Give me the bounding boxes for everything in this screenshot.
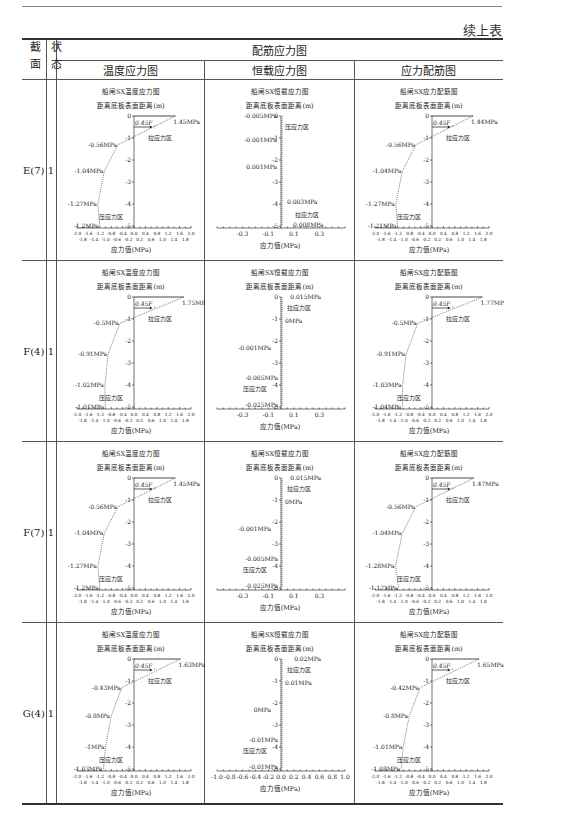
svg-text:-1.4: -1.4: [89, 599, 98, 604]
svg-text:0: 0: [425, 474, 429, 481]
svg-text:-0.43MPa: -0.43MPa: [91, 684, 120, 691]
svg-text:1.6: 1.6: [474, 593, 481, 598]
svg-text:t: t: [154, 305, 156, 309]
table-row: F(4)1船闸SX温度应力图距离底板表面距离(m)0-1-2-3-4-5-2.0…: [22, 261, 503, 442]
svg-text:-4: -4: [125, 200, 131, 207]
svg-text:-1.0: -1.0: [399, 599, 408, 604]
svg-text:1.4: 1.4: [468, 780, 475, 785]
svg-text:0.6: 0.6: [147, 418, 154, 423]
svg-text:距离底板表面距离(m): 距离底板表面距离(m): [97, 101, 165, 110]
svg-text:0: 0: [127, 293, 131, 300]
svg-text:-2: -2: [125, 156, 131, 163]
rebar-stress-chart: 船闸SX应力配筋图距离底板表面距离(m)0-1-2-3-4-5-2.0-1.6-…: [354, 261, 503, 442]
svg-text:-3: -3: [125, 540, 131, 547]
svg-text:-1.8: -1.8: [78, 418, 87, 423]
svg-text:0.0: 0.0: [130, 593, 137, 598]
svg-text:0MPa: 0MPa: [253, 706, 271, 713]
svg-text:-0.005MPa: -0.005MPa: [244, 112, 277, 119]
svg-text:-2.0: -2.0: [370, 593, 379, 598]
svg-text:-0.4: -0.4: [416, 774, 425, 779]
svg-text:0.2: 0.2: [136, 418, 143, 423]
svg-text:距离底板表面距离(m): 距离底板表面距离(m): [246, 463, 314, 472]
state-label: 1: [46, 442, 56, 623]
svg-text:-1.6: -1.6: [84, 231, 93, 236]
svg-text:1.2: 1.2: [462, 593, 469, 598]
svg-text:-2.0: -2.0: [72, 412, 81, 417]
svg-text:1.6: 1.6: [474, 774, 481, 779]
svg-text:t: t: [452, 124, 454, 128]
svg-text:-2.0: -2.0: [72, 593, 81, 598]
state-label: 1: [46, 261, 56, 442]
svg-text:0.8: 0.8: [451, 774, 458, 779]
svg-text:-1.4: -1.4: [387, 780, 396, 785]
svg-text:-1.0: -1.0: [101, 237, 110, 242]
svg-text:-1.4: -1.4: [387, 418, 396, 423]
svg-text:2.0: 2.0: [485, 412, 492, 417]
svg-text:拉应力区: 拉应力区: [148, 134, 172, 142]
svg-text:-0.001MPa: -0.001MPa: [244, 136, 277, 143]
section-label: F(7): [22, 442, 46, 623]
svg-text:1.65MPa: 1.65MPa: [477, 661, 504, 668]
svg-text:压应力区: 压应力区: [397, 213, 421, 221]
svg-text:0.6: 0.6: [147, 780, 154, 785]
svg-text:-1.6: -1.6: [84, 412, 93, 417]
svg-text:2.0: 2.0: [187, 593, 194, 598]
svg-text:0.2: 0.2: [289, 773, 299, 780]
svg-text:距离底板表面距离(m): 距离底板表面距离(m): [395, 644, 463, 653]
svg-text:0.45F: 0.45F: [433, 662, 451, 669]
svg-text:-1: -1: [125, 677, 131, 684]
svg-text:1.44MPa: 1.44MPa: [471, 118, 498, 125]
svg-text:-4: -4: [125, 562, 131, 569]
svg-text:0: 0: [274, 655, 278, 662]
svg-text:应力值(MPa): 应力值(MPa): [110, 607, 151, 616]
svg-text:应力值(MPa): 应力值(MPa): [259, 603, 300, 612]
svg-text:-1.8: -1.8: [376, 418, 385, 423]
svg-text:-0.8: -0.8: [107, 774, 116, 779]
svg-text:0: 0: [425, 293, 429, 300]
svg-text:0.2: 0.2: [136, 780, 143, 785]
svg-text:-3: -3: [423, 178, 429, 185]
svg-text:2.0: 2.0: [485, 774, 492, 779]
svg-text:-0.3: -0.3: [236, 411, 248, 418]
svg-text:0.6: 0.6: [147, 599, 154, 604]
svg-text:-1: -1: [272, 677, 278, 684]
svg-text:-3: -3: [423, 540, 429, 547]
svg-text:船闸SX温度应力图: 船闸SX温度应力图: [101, 630, 159, 639]
svg-text:1.8: 1.8: [181, 237, 188, 242]
svg-text:-3: -3: [272, 721, 278, 728]
svg-text:距离底板表面距离(m): 距离底板表面距离(m): [97, 644, 165, 653]
svg-text:船闸SX恒载应力图: 船闸SX恒载应力图: [250, 87, 308, 96]
svg-text:-1: -1: [272, 315, 278, 322]
svg-text:-1.8: -1.8: [78, 237, 87, 242]
svg-text:0.8: 0.8: [451, 593, 458, 598]
svg-text:-0.8: -0.8: [405, 593, 414, 598]
svg-text:1.4: 1.4: [468, 418, 475, 423]
svg-text:-1.8: -1.8: [376, 237, 385, 242]
svg-text:-0.4: -0.4: [416, 593, 425, 598]
svg-text:船闸SX应力配筋图: 船闸SX应力配筋图: [399, 630, 457, 639]
svg-text:t: t: [154, 124, 156, 128]
svg-text:-0.3: -0.3: [236, 592, 248, 599]
svg-text:0.01MPa: 0.01MPa: [285, 679, 312, 686]
svg-text:2.0: 2.0: [485, 231, 492, 236]
svg-text:船闸SX恒载应力图: 船闸SX恒载应力图: [250, 449, 308, 458]
svg-text:-1: -1: [272, 496, 278, 503]
svg-text:压应力区: 压应力区: [243, 747, 267, 755]
dead-load-stress-chart: 船闸SX恒载应力图距离底板表面距离(m)0-1-2-3-4-5-0.3-0.10…: [204, 442, 354, 623]
svg-text:1.6: 1.6: [474, 231, 481, 236]
svg-text:1.4: 1.4: [170, 418, 177, 423]
svg-text:0.2: 0.2: [434, 418, 441, 423]
svg-text:-1.8: -1.8: [78, 780, 87, 785]
svg-text:-0.2: -0.2: [422, 599, 431, 604]
svg-text:-4: -4: [423, 562, 429, 569]
svg-text:-1.02MPa: -1.02MPa: [75, 381, 104, 388]
svg-text:2.0: 2.0: [485, 593, 492, 598]
svg-text:-1.2MPa: -1.2MPa: [73, 222, 98, 229]
continued-label: 续上表: [463, 20, 502, 39]
svg-text:0.6: 0.6: [445, 237, 452, 242]
svg-text:-1.17MPa: -1.17MPa: [368, 584, 397, 591]
svg-text:-2: -2: [272, 518, 278, 525]
svg-text:-0.6: -0.6: [410, 237, 419, 242]
svg-text:-0.01MPa: -0.01MPa: [249, 736, 278, 743]
svg-text:-0.8MPa: -0.8MPa: [85, 712, 110, 719]
